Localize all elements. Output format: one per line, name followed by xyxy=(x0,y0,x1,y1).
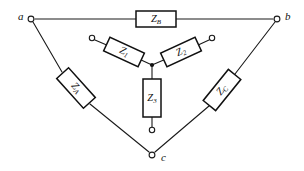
component-z1[interactable]: Z1 xyxy=(104,37,145,67)
wire-za-to-c xyxy=(90,104,149,152)
wye-center-junction-dot xyxy=(150,63,154,67)
z3-open-terminal[interactable] xyxy=(149,127,154,132)
circuit-diagram: ZB ZA ZC Z1 Z2 Z3 xyxy=(0,0,304,171)
component-za[interactable]: ZA xyxy=(57,68,96,108)
node-b-label: b xyxy=(285,10,291,22)
component-z2[interactable]: Z2 xyxy=(161,37,202,67)
z2-open-terminal[interactable] xyxy=(209,35,214,40)
node-b-terminal[interactable] xyxy=(274,16,280,22)
node-c-terminal[interactable] xyxy=(149,152,155,158)
z1-open-terminal[interactable] xyxy=(89,35,94,40)
wire-a-to-za xyxy=(33,22,62,72)
component-zb[interactable]: ZB xyxy=(136,11,176,27)
wire-zc-to-c xyxy=(155,106,209,152)
node-a-terminal[interactable] xyxy=(28,16,34,22)
component-z3[interactable]: Z3 xyxy=(143,79,161,117)
circuit-svg: ZB ZA ZC Z1 Z2 Z3 xyxy=(0,0,304,171)
node-c-label: c xyxy=(161,151,166,163)
component-zc[interactable]: ZC xyxy=(203,69,241,110)
node-a-label: a xyxy=(18,10,24,22)
wire-b-to-zc xyxy=(235,22,275,74)
